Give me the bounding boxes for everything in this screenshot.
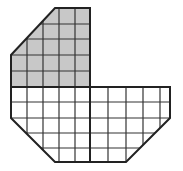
unshaded-region <box>0 8 183 170</box>
shaded-region <box>0 0 95 90</box>
grid-figure-diagram <box>0 0 183 171</box>
